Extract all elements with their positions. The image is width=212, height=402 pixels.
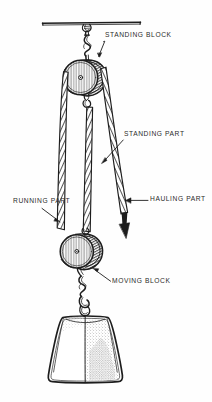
hauling-direction-arrow bbox=[119, 212, 129, 238]
label-standing-block: STANDING BLOCK bbox=[105, 32, 172, 39]
label-moving-block: MOVING BLOCK bbox=[112, 278, 171, 285]
suspended-weight bbox=[48, 306, 122, 383]
moving-block bbox=[60, 228, 102, 269]
rope-standing-hauling-part bbox=[101, 67, 130, 238]
leader-moving-block bbox=[95, 270, 110, 281]
standing-block-hook bbox=[82, 24, 91, 60]
label-running-part: RUNNING PART bbox=[13, 198, 70, 205]
label-standing-part: STANDING PART bbox=[124, 131, 185, 138]
moving-block-hook bbox=[77, 268, 89, 308]
standing-block bbox=[63, 60, 106, 107]
overhead-support-beam bbox=[43, 22, 141, 25]
pulley-diagram: STANDING BLOCK STANDING PART RUNNING PAR… bbox=[0, 0, 212, 402]
rope-running-part bbox=[57, 72, 68, 230]
rope-centre-leg bbox=[83, 107, 92, 232]
label-hauling-part: HAULING PART bbox=[150, 196, 206, 203]
leader-running-part bbox=[42, 208, 57, 219]
